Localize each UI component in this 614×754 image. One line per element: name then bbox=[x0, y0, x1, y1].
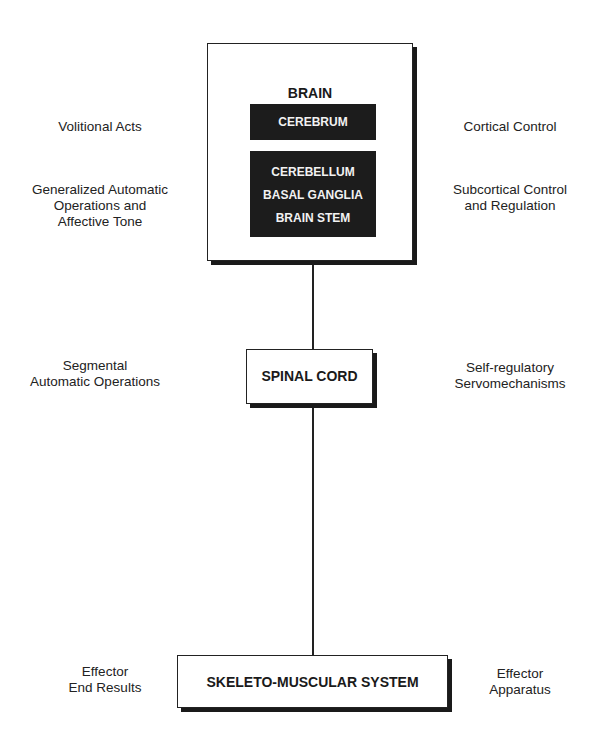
label-line: Servomechanisms bbox=[440, 376, 580, 392]
label-line: Apparatus bbox=[470, 682, 570, 698]
skeleto-muscular-label: SKELETO-MUSCULAR SYSTEM bbox=[178, 674, 447, 690]
subcortical-block: CEREBELLUM BASAL GANGLIA BRAIN STEM bbox=[250, 151, 376, 237]
label-effector-apparatus: Effector Apparatus bbox=[470, 666, 570, 698]
cerebellum-label: CEREBELLUM bbox=[250, 161, 376, 184]
label-line: and Regulation bbox=[440, 198, 580, 214]
skeleto-muscular-box: SKELETO-MUSCULAR SYSTEM bbox=[177, 655, 448, 708]
label-line: Effector bbox=[55, 664, 155, 680]
label-line: Affective Tone bbox=[20, 214, 180, 230]
label-line: Self-regulatory bbox=[440, 360, 580, 376]
label-line: End Results bbox=[55, 680, 155, 696]
label-generalized-automatic: Generalized Automatic Operations and Aff… bbox=[20, 182, 180, 230]
label-line: Operations and bbox=[20, 198, 180, 214]
label-line: Generalized Automatic bbox=[20, 182, 180, 198]
label-subcortical-control: Subcortical Control and Regulation bbox=[440, 182, 580, 214]
label-line: Segmental bbox=[20, 358, 170, 374]
label-line: Automatic Operations bbox=[20, 374, 170, 390]
cerebrum-label: CEREBRUM bbox=[278, 115, 347, 129]
label-line: Effector bbox=[470, 666, 570, 682]
brain-stem-label: BRAIN STEM bbox=[250, 207, 376, 230]
label-segmental-automatic: Segmental Automatic Operations bbox=[20, 358, 170, 390]
label-line: Volitional Acts bbox=[20, 119, 180, 135]
label-cortical-control: Cortical Control bbox=[440, 119, 580, 135]
label-line: Cortical Control bbox=[440, 119, 580, 135]
label-line: Subcortical Control bbox=[440, 182, 580, 198]
cerebrum-block: CEREBRUM bbox=[250, 104, 376, 140]
label-volitional-acts: Volitional Acts bbox=[20, 119, 180, 135]
spinal-to-skeletal-connector bbox=[312, 405, 314, 657]
spinal-cord-label: SPINAL CORD bbox=[247, 368, 372, 384]
label-self-regulatory: Self-regulatory Servomechanisms bbox=[440, 360, 580, 392]
basal-ganglia-label: BASAL GANGLIA bbox=[250, 184, 376, 207]
label-effector-end-results: Effector End Results bbox=[55, 664, 155, 696]
brain-to-spinal-connector bbox=[312, 262, 314, 350]
spinal-cord-box: SPINAL CORD bbox=[246, 349, 373, 404]
brain-title: BRAIN bbox=[208, 85, 412, 101]
